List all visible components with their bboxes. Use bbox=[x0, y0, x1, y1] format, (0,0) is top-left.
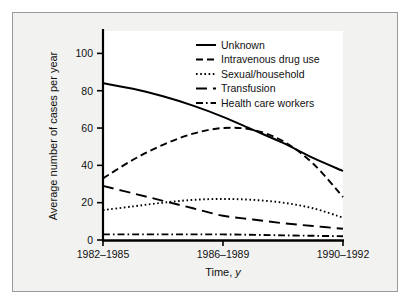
line-chart: 020406080100 1982–19851986–19891990–1992… bbox=[0, 0, 411, 306]
y-tick-label: 20 bbox=[81, 196, 93, 208]
x-axis-title: Time, y bbox=[205, 266, 242, 278]
x-tick-label: 1990–1992 bbox=[317, 248, 370, 260]
x-axis-title-variable: y bbox=[234, 266, 242, 278]
legend-label-transfusion: Transfusion bbox=[221, 82, 276, 94]
y-tick-label: 60 bbox=[81, 122, 93, 134]
legend-label-health-care-workers: Health care workers bbox=[221, 97, 314, 109]
y-tick-label: 40 bbox=[81, 159, 93, 171]
y-tick-label: 0 bbox=[87, 234, 93, 246]
x-tick-label: 1986–1989 bbox=[197, 248, 250, 260]
legend-label-sexual-household: Sexual/household bbox=[221, 68, 305, 80]
chart-canvas: 020406080100 1982–19851986–19891990–1992… bbox=[0, 0, 411, 306]
y-tick-label: 100 bbox=[75, 47, 93, 59]
x-axis-title-text: Time, bbox=[205, 266, 235, 278]
y-axis-tick-labels: 020406080100 bbox=[75, 47, 93, 246]
legend-label-intravenous-drug-use: Intravenous drug use bbox=[221, 53, 320, 65]
x-axis-tick-labels: 1982–19851986–19891990–1992 bbox=[77, 248, 370, 260]
y-axis-title: Average number of cases per year bbox=[47, 51, 59, 220]
y-tick-label: 80 bbox=[81, 85, 93, 97]
legend-label-unknown: Unknown bbox=[221, 39, 265, 51]
x-tick-label: 1982–1985 bbox=[77, 248, 130, 260]
chart-screenshot: 020406080100 1982–19851986–19891990–1992… bbox=[0, 0, 411, 306]
